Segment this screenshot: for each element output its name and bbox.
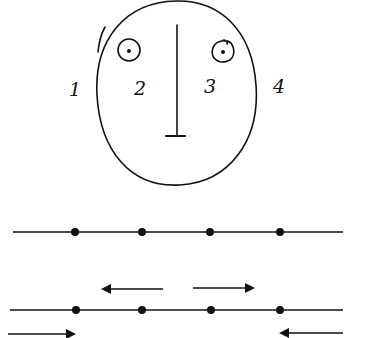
point-dot-icon: [206, 228, 214, 236]
diagram-canvas: [0, 0, 376, 338]
right-eye-icon: [212, 40, 233, 62]
point-dot-icon: [207, 306, 215, 314]
point-dot-icon: [276, 228, 284, 236]
label-3: 3: [204, 77, 216, 96]
label-2: 2: [134, 79, 146, 98]
left-eye-icon: [118, 39, 140, 61]
bottom-number-line: [10, 306, 343, 314]
face: [97, 1, 257, 185]
label-1: 1: [69, 80, 81, 99]
point-dot-icon: [138, 306, 146, 314]
point-dot-icon: [72, 306, 80, 314]
top-number-line: [13, 228, 343, 236]
bottom-arrows: [8, 333, 343, 334]
point-dot-icon: [276, 306, 284, 314]
point-dot-icon: [138, 228, 146, 236]
middle-arrows: [103, 288, 253, 289]
label-4: 4: [273, 77, 285, 96]
point-dot-icon: [71, 228, 79, 236]
